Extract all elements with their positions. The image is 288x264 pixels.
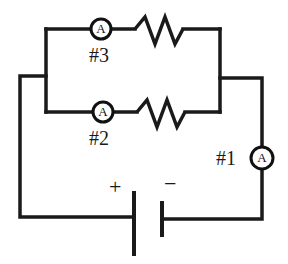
circuit-diagram: A A A #3 #2 #1 + − [0,0,288,264]
battery-minus-sign: − [164,173,176,195]
ammeter-3-symbol: A [91,22,111,35]
ammeter-1-label: #1 [216,148,236,168]
battery-plus-sign: + [109,176,121,198]
upper-resistor [135,17,183,44]
lower-resistor [137,100,185,127]
circuit-drawing [0,0,288,264]
right-bottom-wire [162,170,262,219]
ammeter-2-label: #2 [89,128,109,148]
ammeter-1-symbol: A [252,151,272,164]
ammeter-2-symbol: A [93,105,113,118]
right-outer-wire [220,78,262,146]
ammeter-3-label: #3 [89,45,109,65]
